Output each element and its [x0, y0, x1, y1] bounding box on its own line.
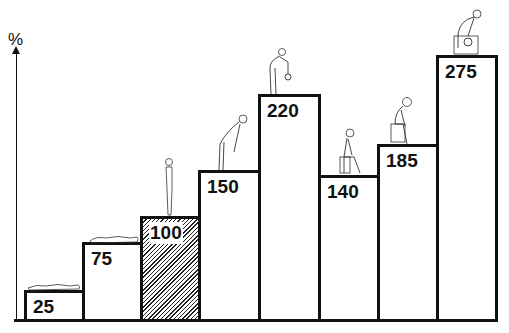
- bar-sitting-bent: 185: [377, 144, 439, 322]
- bar-sitting-upright: 140: [318, 175, 380, 322]
- bar-value-label: 220: [267, 100, 299, 122]
- bar-lying-supine: 25: [24, 290, 85, 322]
- y-axis: [16, 52, 17, 322]
- standing-figure-icon: [162, 157, 176, 217]
- bar-chart: % 25 75 100 150 220 140 185 275: [0, 0, 509, 333]
- bar-lying-side: 75: [82, 242, 143, 322]
- bar-value-label: 75: [91, 248, 112, 270]
- sitting-upright-figure-icon: [336, 127, 366, 175]
- bar-standing-reference: 100: [140, 216, 201, 322]
- lying-side-figure-icon: [88, 233, 140, 244]
- bar-value-label: 275: [445, 61, 477, 83]
- standing-weight-figure-icon: [266, 48, 296, 96]
- sitting-bent-figure-icon: [385, 96, 425, 146]
- bar-value-label: 100: [149, 222, 183, 244]
- bar-standing-bent-weight: 220: [258, 94, 321, 322]
- sitting-weight-figure-icon: [446, 8, 486, 56]
- bar-standing-bent: 150: [198, 170, 261, 322]
- x-axis-baseline: [14, 319, 498, 322]
- standing-bent-figure-icon: [214, 112, 250, 172]
- bar-sitting-bent-weight: 275: [436, 55, 498, 322]
- bar-value-label: 140: [327, 181, 359, 203]
- bar-value-label: 25: [33, 296, 54, 318]
- bar-value-label: 150: [207, 176, 239, 198]
- bar-value-label: 185: [386, 150, 418, 172]
- lying-figure-icon: [26, 280, 82, 292]
